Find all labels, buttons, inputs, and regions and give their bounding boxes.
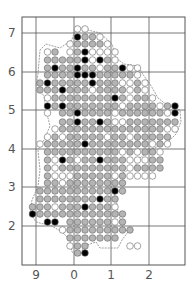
- grey-dot: [149, 165, 156, 172]
- grey-dot: [119, 134, 126, 141]
- grey-dot: [112, 180, 119, 187]
- grey-dot: [134, 134, 141, 141]
- grey-dot: [104, 211, 111, 218]
- solid-dot: [82, 72, 89, 79]
- grey-dot: [74, 165, 81, 172]
- open-dot: [127, 173, 134, 180]
- open-dot: [112, 57, 119, 64]
- grey-dot: [52, 95, 59, 102]
- grey-dot: [44, 157, 51, 164]
- open-dot: [142, 157, 149, 164]
- open-dot: [37, 141, 44, 148]
- solid-dot: [52, 219, 59, 226]
- grey-dot: [52, 149, 59, 156]
- grey-dot: [82, 126, 89, 133]
- grey-dot: [52, 80, 59, 87]
- grey-dot: [112, 157, 119, 164]
- open-dot: [44, 134, 51, 141]
- open-dot: [134, 173, 141, 180]
- open-dot: [52, 157, 59, 164]
- grey-dot: [89, 173, 96, 180]
- grey-dot: [89, 196, 96, 203]
- y-tick-label: 3: [8, 180, 16, 194]
- grey-dot: [82, 87, 89, 94]
- open-dot: [149, 141, 156, 148]
- grey-dot: [44, 211, 51, 218]
- grey-dot: [127, 103, 134, 110]
- grey-dot: [104, 119, 111, 126]
- grey-dot: [67, 149, 74, 156]
- grey-dot: [97, 141, 104, 148]
- grey-dot: [59, 211, 66, 218]
- grey-dot: [59, 165, 66, 172]
- open-dot: [142, 87, 149, 94]
- grey-dot: [74, 134, 81, 141]
- grey-dot: [112, 103, 119, 110]
- grey-dot: [74, 243, 81, 250]
- open-dot: [52, 126, 59, 133]
- grey-dot: [134, 110, 141, 117]
- grey-dot: [82, 157, 89, 164]
- open-dot: [97, 49, 104, 56]
- open-dot: [67, 173, 74, 180]
- grey-dot: [127, 110, 134, 117]
- grey-dot: [104, 72, 111, 79]
- open-dot: [112, 49, 119, 56]
- grey-dot: [104, 180, 111, 187]
- occurrence-dots: [29, 26, 178, 257]
- grey-dot: [97, 173, 104, 180]
- solid-dot: [112, 95, 119, 102]
- grey-dot: [112, 65, 119, 72]
- grey-dot: [67, 87, 74, 94]
- grey-dot: [89, 227, 96, 234]
- grey-dot: [67, 80, 74, 87]
- open-dot: [97, 65, 104, 72]
- grey-dot: [89, 110, 96, 117]
- grey-dot: [67, 211, 74, 218]
- grey-dot: [104, 103, 111, 110]
- grey-dot: [52, 134, 59, 141]
- grey-dot: [89, 95, 96, 102]
- grey-dot: [142, 149, 149, 156]
- open-dot: [127, 80, 134, 87]
- grey-dot: [104, 196, 111, 203]
- grey-dot: [104, 126, 111, 133]
- grey-dot: [59, 126, 66, 133]
- grey-dot: [89, 219, 96, 226]
- grey-dot: [82, 219, 89, 226]
- grey-dot: [134, 126, 141, 133]
- grey-dot: [67, 165, 74, 172]
- grey-dot: [89, 235, 96, 242]
- grey-dot: [112, 235, 119, 242]
- open-dot: [142, 80, 149, 87]
- open-dot: [164, 126, 171, 133]
- open-dot: [127, 95, 134, 102]
- open-dot: [112, 219, 119, 226]
- grey-dot: [89, 204, 96, 211]
- grey-dot: [67, 57, 74, 64]
- solid-dot: [74, 110, 81, 117]
- grey-dot: [89, 134, 96, 141]
- open-dot: [134, 149, 141, 156]
- x-tick-label: 0: [70, 268, 78, 282]
- solid-dot: [74, 65, 81, 72]
- grey-dot: [74, 141, 81, 148]
- grey-dot: [97, 134, 104, 141]
- open-dot: [67, 243, 74, 250]
- grey-dot: [119, 126, 126, 133]
- grey-dot: [82, 41, 89, 48]
- grey-dot: [97, 110, 104, 117]
- open-dot: [157, 149, 164, 156]
- grey-dot: [112, 149, 119, 156]
- grey-dot: [127, 227, 134, 234]
- y-tick-label: 6: [8, 65, 16, 79]
- solid-dot: [172, 103, 179, 110]
- grey-dot: [112, 227, 119, 234]
- grey-dot: [104, 188, 111, 195]
- grey-dot: [67, 204, 74, 211]
- grey-dot: [104, 235, 111, 242]
- grey-dot: [134, 165, 141, 172]
- grey-dot: [74, 180, 81, 187]
- open-dot: [104, 49, 111, 56]
- solid-dot: [44, 219, 51, 226]
